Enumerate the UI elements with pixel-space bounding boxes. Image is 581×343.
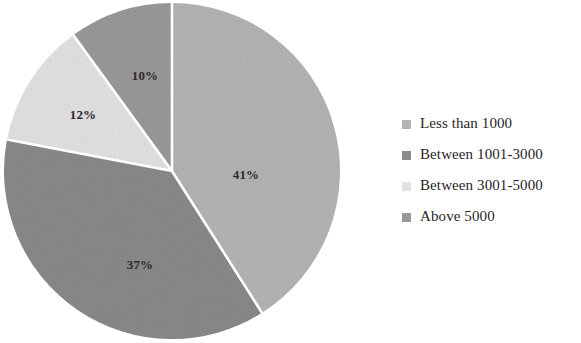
pie-chart-plot-area: 41%37%12%10%: [3, 2, 341, 342]
chart-legend: Less than 1000Between 1001-3000Between 3…: [402, 108, 578, 232]
legend-item[interactable]: Between 3001-5000: [402, 170, 578, 201]
legend-item[interactable]: Between 1001-3000: [402, 139, 578, 170]
legend-item-label: Between 1001-3000: [420, 146, 543, 163]
legend-item[interactable]: Above 5000: [402, 201, 578, 232]
pie-slice-value-label: 37%: [127, 257, 154, 272]
legend-swatch-icon: [402, 151, 411, 160]
legend-swatch-icon: [402, 182, 411, 191]
pie-slice-value-label: 10%: [132, 68, 159, 83]
legend-item-label: Above 5000: [420, 208, 495, 225]
pie-chart-figure: 41%37%12%10% Less than 1000Between 1001-…: [0, 0, 581, 343]
legend-item-label: Less than 1000: [420, 115, 512, 132]
legend-swatch-icon: [402, 120, 411, 129]
pie-slice-value-label: 41%: [233, 167, 260, 182]
legend-swatch-icon: [402, 213, 411, 222]
legend-item[interactable]: Less than 1000: [402, 108, 578, 139]
pie-slice-value-label: 12%: [70, 107, 97, 122]
pie-chart-svg: 41%37%12%10%: [3, 2, 341, 342]
legend-item-label: Between 3001-5000: [420, 177, 543, 194]
